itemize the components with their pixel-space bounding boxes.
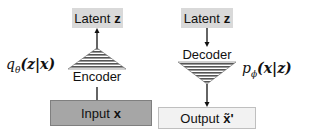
dist-func: q bbox=[6, 56, 15, 72]
decoder-triangle-icon bbox=[178, 62, 236, 84]
output-symbol: x̃' bbox=[223, 111, 233, 126]
latent-symbol: z bbox=[224, 11, 231, 26]
encoder-label: Encoder bbox=[62, 69, 132, 84]
latent-symbol: z bbox=[114, 11, 121, 26]
decoder-label: Decoder bbox=[172, 47, 242, 62]
dist-func: p bbox=[242, 60, 251, 76]
dist-args: (z|x) bbox=[20, 56, 55, 72]
input-symbol: x bbox=[114, 106, 121, 121]
dist-args: (x|z) bbox=[257, 60, 292, 76]
encoder-arrow bbox=[95, 28, 100, 50]
output-label: Output bbox=[180, 111, 219, 126]
encoder-latent-box: Latentz bbox=[72, 8, 123, 28]
encoder-triangle-icon bbox=[68, 48, 126, 69]
input-box: Inputx bbox=[50, 100, 152, 126]
input-label: Input bbox=[81, 106, 110, 121]
decoder-arrow-out bbox=[205, 84, 210, 107]
latent-label: Latent bbox=[74, 11, 110, 26]
decoder-distribution: pϕ(x|z) bbox=[242, 60, 292, 79]
decoder-arrow-in bbox=[205, 28, 210, 47]
output-box: Outputx̃' bbox=[158, 107, 256, 129]
encoder-distribution: qθ(z|x) bbox=[6, 56, 55, 75]
decoder-latent-box: Latentz bbox=[181, 8, 233, 28]
latent-label: Latent bbox=[184, 11, 220, 26]
